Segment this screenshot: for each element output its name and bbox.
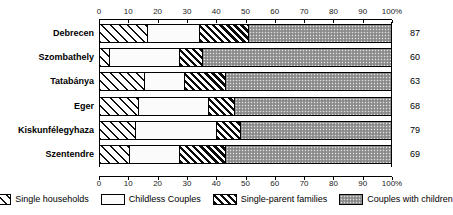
bar-row-debrecen (100, 24, 391, 43)
category-label-szentendre: Szentendre (45, 150, 94, 159)
axis-tick-label: 100% (382, 180, 402, 188)
legend-label: Single-parent families (241, 195, 328, 204)
bar-segment-childless-couples (138, 98, 208, 115)
bar-segment-childless-couples (147, 25, 199, 42)
category-label-szombathely: Szombathely (38, 53, 94, 62)
axis-tick-label: 60 (270, 180, 279, 188)
row-value-debrecen: 87 (410, 29, 420, 38)
row-value-szentendre: 69 (410, 150, 420, 159)
bar-segment-single-households (100, 73, 144, 90)
axis-tick-label: 20 (153, 180, 162, 188)
row-value-tatab-nya: 63 (410, 77, 420, 86)
axis-tick-label: 80 (329, 8, 338, 16)
axis-tick-label: 0 (97, 8, 101, 16)
row-value-szombathely: 60 (410, 53, 420, 62)
legend-item-childless-couples[interactable]: Childless Couples (101, 194, 201, 205)
legend-item-couples-with-children[interactable]: Couples with children (339, 194, 453, 205)
bar-segment-couples-with-children (202, 49, 391, 66)
category-label-tatab-nya: Tatabánya (50, 77, 94, 86)
bar-segment-single-households (100, 25, 147, 42)
bar-segment-childless-couples (144, 73, 185, 90)
legend-label: Childless Couples (129, 195, 201, 204)
bar-segment-single-households (100, 146, 129, 163)
bar-segment-single-households (100, 122, 135, 139)
row-value-eger: 68 (410, 102, 420, 111)
bar-segment-couples-with-children (234, 98, 391, 115)
bar-segment-childless-couples (109, 49, 179, 66)
axis-tick-label: 40 (212, 8, 221, 16)
bar-segment-single-parent-families (179, 146, 226, 163)
legend-label: Couples with children (367, 195, 453, 204)
axis-tick-label: 50 (241, 180, 250, 188)
legend-item-single-parent-families[interactable]: Single-parent families (213, 194, 328, 205)
bar-segment-single-parent-families (179, 49, 202, 66)
bar-segment-single-households (100, 49, 109, 66)
axis-tick-label: 30 (182, 180, 191, 188)
bar-segment-single-parent-families (208, 98, 234, 115)
axis-tick-label: 50 (241, 8, 250, 16)
axis-tick-label: 0 (97, 180, 101, 188)
axis-tick-label: 80 (329, 180, 338, 188)
legend-swatch-icon (101, 194, 125, 205)
bar-segment-couples-with-children (248, 25, 391, 42)
legend-label: Single households (15, 195, 89, 204)
bar-row-szentendre (100, 145, 391, 164)
bar-segment-couples-with-children (240, 122, 391, 139)
bar-segment-childless-couples (135, 122, 216, 139)
axis-tick-label: 20 (153, 8, 162, 16)
bar-row-kiskunf-legyhaza (100, 121, 391, 140)
plot-area (99, 22, 392, 167)
bar-segment-couples-with-children (225, 146, 391, 163)
axis-tick-label: 100% (382, 8, 402, 16)
axis-tick (392, 20, 393, 23)
axis-tick-label: 70 (300, 180, 309, 188)
bar-row-szombathely (100, 48, 391, 67)
bar-segment-single-parent-families (216, 122, 239, 139)
axis-tick-label: 30 (182, 8, 191, 16)
row-value-kiskunf-legyhaza: 79 (410, 126, 420, 135)
axis-tick-label: 40 (212, 180, 221, 188)
bar-segment-single-parent-families (184, 73, 225, 90)
axis-tick-label: 60 (270, 8, 279, 16)
legend-item-single-households[interactable]: Single households (0, 194, 89, 205)
x-axis-bottom: 0102030405060708090100% (0, 176, 440, 194)
category-label-kiskunf-legyhaza: Kiskunfélegyhaza (18, 126, 94, 135)
bar-row-eger (100, 97, 391, 116)
axis-tick-label: 90 (358, 8, 367, 16)
bar-segment-couples-with-children (225, 73, 391, 90)
bar-row-tatab-nya (100, 72, 391, 91)
legend-swatch-icon (339, 194, 363, 205)
axis-tick-label: 70 (300, 8, 309, 16)
bar-segment-single-parent-families (199, 25, 248, 42)
legend-swatch-icon (213, 194, 237, 205)
axis-tick-label: 90 (358, 180, 367, 188)
chart-legend: Single householdsChildless CouplesSingle… (0, 194, 440, 205)
axis-tick-label: 10 (124, 180, 133, 188)
bar-segment-single-households (100, 98, 138, 115)
axis-tick-label: 10 (124, 8, 133, 16)
legend-swatch-icon (0, 194, 11, 205)
category-label-debrecen: Debrecen (53, 29, 94, 38)
bar-segment-childless-couples (129, 146, 178, 163)
category-label-eger: Eger (74, 102, 94, 111)
